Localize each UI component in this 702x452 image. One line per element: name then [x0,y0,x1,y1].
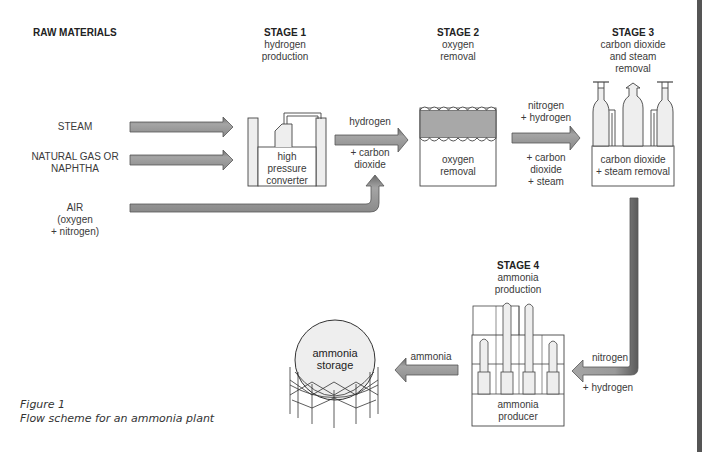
flow-hydrogen-label: hydrogen [340,116,400,128]
air-label: AIR (oxygen + nitrogen) [40,202,110,238]
stage-1-header: STAGE 1 hydrogen production [240,27,330,63]
stage-3-header: STAGE 3 carbon dioxide and steam removal [588,27,678,75]
steam-label: STEAM [40,121,110,133]
stage-1-box-label: high pressure converter [258,151,316,187]
natural-gas-arrow [130,150,233,170]
flow-nitrogen-hydrogen-label: nitrogen + hydrogen [510,100,582,124]
figure-caption: Figure 1 Flow scheme for an ammonia plan… [20,398,240,426]
flow-co2-steam-label: + carbon dioxide + steam [510,152,582,188]
stage-2-header: STAGE 2 oxygen removal [420,27,496,63]
natural-gas-label: NATURAL GAS OR NAPHTHA [20,151,130,175]
flow-ammonia-label: ammonia [405,351,457,363]
flow-co2-label: + carbon dioxide [340,147,400,171]
page-edge-bar [697,0,702,452]
steam-arrow [130,117,233,137]
ammonia-storage-sphere [290,320,378,428]
raw-materials-heading: RAW MATERIALS [33,27,117,39]
ammonia-storage-label: ammonia storage [300,347,370,371]
stage-2-box-label: oxygen removal [420,154,496,178]
stage-4-header: STAGE 4 ammonia production [478,260,558,296]
stage-4-box-label: ammonia producer [472,399,564,423]
flow-hydrogen-label-2: + hydrogen [578,382,638,394]
nitrogen-hydrogen-arrow [512,126,580,150]
flow-nitrogen-label: nitrogen [585,352,635,364]
stage-3-box-label: carbon dioxide + steam removal [592,154,674,178]
